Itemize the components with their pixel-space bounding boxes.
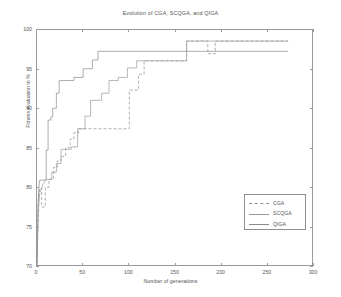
x-tick-mark <box>267 29 268 32</box>
legend-item-cga[interactable]: CGA <box>245 198 307 209</box>
series-layer <box>37 30 314 267</box>
y-tick-mark <box>310 69 313 70</box>
series-line-qiga <box>37 51 288 267</box>
x-tick-label: 50 <box>70 269 94 275</box>
x-tick-label: 0 <box>24 269 48 275</box>
x-tick-mark <box>175 29 176 32</box>
x-tick-label: 300 <box>301 269 325 275</box>
page-title: Evolution of CGA, SCQGA, and QIGA <box>0 10 341 16</box>
legend-swatch-qiga <box>249 224 269 226</box>
x-tick-mark <box>82 29 83 32</box>
legend-label: CGA <box>273 200 284 206</box>
x-tick-mark <box>313 263 314 266</box>
legend-swatch-cga <box>249 203 269 205</box>
x-axis-label: Number of generations <box>0 278 341 284</box>
y-tick-label: 95 <box>10 66 32 72</box>
x-tick-mark <box>175 263 176 266</box>
figure-canvas: Evolution of CGA, SCQGA, and QIGA Fitnes… <box>0 0 341 297</box>
y-tick-mark <box>36 148 39 149</box>
y-tick-mark <box>310 227 313 228</box>
y-tick-mark <box>310 266 313 267</box>
chart-legend: CGASCQGAQIGA <box>244 194 306 230</box>
x-tick-mark <box>267 263 268 266</box>
x-tick-mark <box>128 29 129 32</box>
x-tick-mark <box>221 29 222 32</box>
legend-label: QIGA <box>273 221 286 227</box>
y-tick-label: 80 <box>10 184 32 190</box>
y-axis-label: Fitness evaluation in % <box>25 41 31 161</box>
y-tick-mark <box>310 108 313 109</box>
x-tick-mark <box>221 263 222 266</box>
y-tick-mark <box>36 266 39 267</box>
legend-swatch-scqga <box>249 214 269 216</box>
legend-item-qiga[interactable]: QIGA <box>245 219 307 230</box>
x-tick-label: 250 <box>255 269 279 275</box>
x-tick-mark <box>313 29 314 32</box>
y-tick-mark <box>310 187 313 188</box>
legend-item-scqga[interactable]: SCQGA <box>245 209 307 220</box>
plot-axes <box>36 29 313 266</box>
y-tick-label: 100 <box>10 26 32 32</box>
x-tick-mark <box>36 29 37 32</box>
x-tick-mark <box>36 263 37 266</box>
y-tick-mark <box>36 69 39 70</box>
y-tick-label: 85 <box>10 145 32 151</box>
x-tick-mark <box>128 263 129 266</box>
y-tick-mark <box>36 108 39 109</box>
y-tick-label: 75 <box>10 224 32 230</box>
y-tick-mark <box>36 227 39 228</box>
y-tick-mark <box>310 148 313 149</box>
x-tick-label: 100 <box>116 269 140 275</box>
series-line-cga <box>37 41 288 267</box>
x-tick-label: 150 <box>163 269 187 275</box>
series-line-scqga <box>37 41 288 267</box>
x-tick-mark <box>82 263 83 266</box>
legend-label: SCQGA <box>273 210 292 216</box>
y-tick-mark <box>36 187 39 188</box>
x-tick-label: 200 <box>209 269 233 275</box>
y-tick-label: 90 <box>10 105 32 111</box>
